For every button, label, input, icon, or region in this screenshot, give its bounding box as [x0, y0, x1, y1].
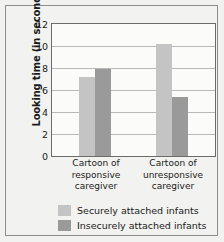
y-axis-tick-label: 0: [42, 151, 48, 162]
x-axis-category-1-line-1: unresponsive: [130, 170, 216, 182]
x-axis-category-1-line-0: Cartoon of: [130, 158, 216, 170]
legend-item-insecure: Insecurely attached infants: [58, 218, 206, 233]
legend: Securely attached infants Insecurely att…: [58, 203, 206, 233]
gridline: [52, 90, 215, 91]
x-axis-category-0: Cartoon of responsive caregiver: [53, 158, 139, 193]
gridline: [52, 134, 215, 135]
gridline: [52, 46, 215, 47]
y-axis-tick-label: 12: [36, 19, 48, 30]
x-axis-category-0-line-1: responsive: [53, 170, 139, 182]
legend-swatch-secure-icon: [58, 205, 71, 216]
bar-1-1: [172, 97, 188, 156]
gridline: [52, 68, 215, 69]
bar-0-1: [95, 69, 111, 156]
legend-label-secure: Securely attached infants: [77, 205, 199, 216]
x-axis-category-0-line-2: caregiver: [53, 181, 139, 193]
y-axis-tick-label: 8: [42, 63, 48, 74]
y-axis-tick-label: 4: [42, 107, 48, 118]
legend-item-secure: Securely attached infants: [58, 203, 206, 218]
x-axis-category-0-line-0: Cartoon of: [53, 158, 139, 170]
y-axis-tick-label: 6: [42, 85, 48, 96]
gridline: [52, 112, 215, 113]
plot-area: 024681012: [51, 23, 216, 157]
bar-group-1: [156, 24, 188, 156]
bar-group-0: [79, 24, 111, 156]
bar-1-0: [156, 44, 172, 156]
figure-container: Looking time (in seconds) 024681012 Cart…: [0, 0, 224, 242]
y-axis-tick-label: 2: [42, 129, 48, 140]
y-axis-tick-label: 10: [36, 41, 48, 52]
x-axis-category-1-line-2: caregiver: [130, 181, 216, 193]
legend-swatch-insecure-icon: [58, 220, 71, 231]
x-axis-category-1: Cartoon of unresponsive caregiver: [130, 158, 216, 193]
legend-label-insecure: Insecurely attached infants: [77, 220, 206, 231]
bar-0-0: [79, 77, 95, 156]
figure-border: Looking time (in seconds) 024681012 Cart…: [5, 5, 218, 236]
